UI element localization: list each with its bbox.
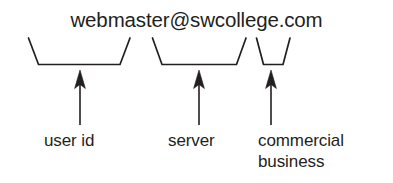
label-commercial-business: commercial business [258,130,373,172]
label-server: server [168,130,215,151]
arrow-to-server [194,70,205,125]
arrow-to-commercial [266,70,277,125]
arrow-to-user-id [75,70,86,125]
email-address-text: webmaster@swcollege.com [0,8,393,32]
brace-commercial [257,38,291,65]
brace-server [153,38,247,65]
label-commercial-line2: business [258,151,373,172]
email-anatomy-diagram: webmaster@swcollege.com user id [0,0,393,183]
brace-user-id [29,38,131,65]
label-user-id: user id [44,130,94,151]
label-commercial-line1: commercial [258,130,373,151]
